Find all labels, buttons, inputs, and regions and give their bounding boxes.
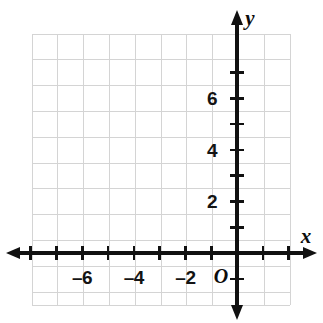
y-axis-label: y [245, 8, 254, 29]
coordinate-plane-svg [0, 0, 323, 323]
y-tick-label-2: 2 [207, 192, 217, 211]
y-axis-arrow-down [231, 305, 243, 320]
origin-label: O [214, 266, 228, 286]
x-tick-label-neg6: –6 [72, 268, 92, 287]
y-axis [231, 10, 243, 320]
x-axis-arrow-left [6, 247, 20, 259]
x-axis-label: x [301, 226, 312, 247]
y-tick-label-6: 6 [207, 89, 217, 108]
x-axis-arrow-right [303, 247, 317, 259]
y-axis-arrow-up [231, 10, 243, 25]
grid-lines [32, 34, 290, 305]
x-tick-label-neg2: –2 [175, 268, 195, 287]
coordinate-plane-figure: –6 –4 –2 2 4 6 O x y [0, 0, 323, 323]
y-tick-label-4: 4 [207, 140, 217, 159]
x-tick-label-neg4: –4 [124, 268, 144, 287]
